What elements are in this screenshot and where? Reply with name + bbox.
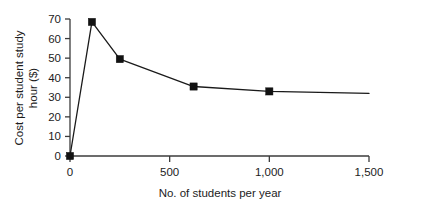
- data-point-0: [66, 152, 73, 159]
- y-axis-title-line-1: Cost per student study: [13, 30, 25, 145]
- x-tick-label-500: 500: [160, 166, 179, 178]
- data-point-4: [266, 88, 273, 95]
- y-tick-label-30: 30: [48, 91, 61, 103]
- data-point-2: [116, 56, 123, 63]
- x-axis-title: No. of students per year: [159, 187, 282, 199]
- y-tick-label-60: 60: [48, 33, 61, 45]
- y-tick-label-20: 20: [48, 111, 61, 123]
- line-chart: 010203040506070 05001,0001,500 No. of st…: [0, 0, 421, 205]
- x-tick-label-1500: 1,500: [355, 166, 384, 178]
- y-tick-label-70: 70: [48, 13, 61, 25]
- data-point-3: [190, 83, 197, 90]
- y-tick-label-50: 50: [48, 52, 61, 64]
- y-tick-label-40: 40: [48, 72, 61, 84]
- y-tick-label-0: 0: [55, 150, 61, 162]
- data-point-1: [88, 18, 95, 25]
- chart-figure: 010203040506070 05001,0001,500 No. of st…: [0, 0, 421, 205]
- x-tick-label-0: 0: [67, 166, 73, 178]
- y-tick-label-10: 10: [48, 130, 61, 142]
- y-axis-title-line-2: hour ($): [27, 68, 39, 108]
- x-tick-label-1000: 1,000: [255, 166, 284, 178]
